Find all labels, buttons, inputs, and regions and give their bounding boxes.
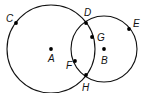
point-C bbox=[14, 21, 18, 25]
label-B: B bbox=[101, 55, 108, 66]
label-E: E bbox=[133, 18, 140, 29]
point-F bbox=[73, 59, 77, 63]
label-F: F bbox=[66, 60, 73, 71]
points-layer bbox=[14, 21, 131, 77]
point-B bbox=[102, 47, 106, 51]
label-A: A bbox=[47, 53, 55, 64]
label-C: C bbox=[6, 13, 14, 24]
point-G bbox=[90, 35, 94, 39]
label-H: H bbox=[82, 82, 90, 93]
point-D bbox=[84, 21, 88, 25]
intersecting-circles-diagram: ABCDEGFH bbox=[0, 0, 141, 93]
point-A bbox=[49, 47, 53, 51]
point-E bbox=[127, 27, 131, 31]
label-G: G bbox=[97, 32, 105, 43]
label-D: D bbox=[84, 7, 91, 18]
point-H bbox=[84, 73, 88, 77]
